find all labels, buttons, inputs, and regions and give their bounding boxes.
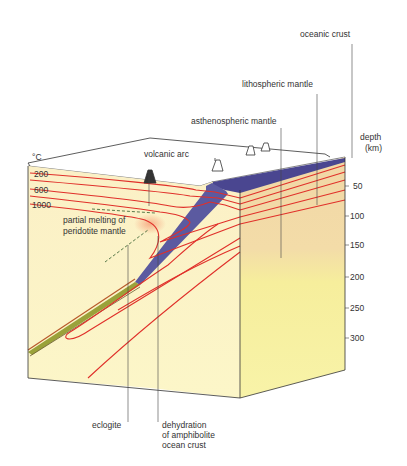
label-oceanic-crust: oceanic crust	[300, 29, 351, 39]
label-partial-melting-2: peridotite mantle	[63, 226, 126, 236]
label-partial-melting-1: partial melting of	[63, 215, 126, 225]
depth-axis-unit: (km)	[365, 143, 382, 153]
volcano-icon	[246, 146, 255, 155]
volcano-icon	[212, 160, 223, 171]
label-dehydration-2: of amphibolite	[162, 430, 215, 440]
depth-axis	[345, 186, 349, 338]
temp-tick-1000: 1000	[32, 200, 51, 210]
label-dehydration-3: ocean crust	[162, 440, 207, 450]
label-lithospheric-mantle: lithospheric mantle	[242, 79, 313, 89]
label-dehydration-1: dehydration	[162, 420, 207, 430]
depth-tick-200: 200	[350, 272, 364, 282]
volcano-icon	[261, 143, 270, 151]
depth-tick-150: 150	[350, 240, 364, 250]
depth-tick-300: 300	[350, 333, 364, 343]
subduction-diagram: oceanic crust lithospheric mantle asthen…	[0, 0, 407, 466]
depth-tick-250: 250	[350, 303, 364, 313]
volcano-icon	[144, 170, 156, 183]
depth-axis-title: depth	[360, 132, 382, 142]
temperature-unit: °C	[32, 152, 42, 162]
depth-tick-50: 50	[353, 181, 363, 191]
depth-tick-100: 100	[350, 211, 364, 221]
label-asthenospheric-mantle: asthenospheric mantle	[191, 116, 277, 126]
temp-tick-600: 600	[34, 185, 48, 195]
label-eclogite: eclogite	[92, 420, 122, 430]
temp-tick-200: 200	[34, 169, 48, 179]
label-volcanic-arc: volcanic arc	[144, 149, 190, 159]
